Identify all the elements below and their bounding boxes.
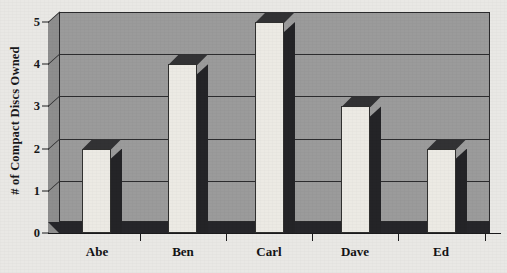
y-axis-tick-labels: 012345 — [24, 0, 40, 273]
x-axis-tick-mark — [312, 233, 313, 241]
y-axis-tick-label: 1 — [24, 183, 40, 198]
bar-front-face — [255, 22, 284, 233]
bar-side-face — [456, 149, 467, 233]
y-axis-tick-label: 2 — [24, 141, 40, 156]
bar-ben[interactable] — [168, 64, 197, 233]
bar-front-face — [341, 106, 370, 233]
x-axis-label-carl: Carl — [256, 244, 281, 260]
y-axis-tick-mark — [42, 106, 49, 107]
x-axis-label-abe: Abe — [86, 244, 108, 260]
bar-front-face — [168, 64, 197, 233]
y-axis-tick-mark — [42, 148, 49, 149]
x-axis-tick-mark — [398, 233, 399, 241]
x-axis-tick-mark — [140, 233, 141, 241]
x-axis-label-ed: Ed — [433, 244, 449, 260]
bar-side-face — [111, 149, 122, 233]
x-axis-line — [48, 233, 501, 234]
y-axis-label-text: # of Compact Discs Owned — [8, 46, 23, 195]
y-axis-tick-label: 0 — [24, 226, 40, 241]
bar-dave[interactable] — [341, 106, 370, 233]
x-axis-tick-mark — [226, 233, 227, 241]
y-axis-tick-label: 5 — [24, 15, 40, 30]
y-axis-tick-mark — [42, 190, 49, 191]
bar-side-face — [197, 64, 208, 233]
bar-carl[interactable] — [255, 22, 284, 233]
y-axis-tick-mark — [42, 233, 49, 234]
bar-side-face — [284, 22, 295, 233]
bar-front-face — [427, 149, 456, 233]
x-axis-label-dave: Dave — [341, 244, 369, 260]
bar-ed[interactable] — [427, 149, 456, 233]
y-axis-tick-label: 4 — [24, 57, 40, 72]
bar-chart-figure: # of Compact Discs Owned 012345 AbeBenCa… — [0, 0, 507, 273]
y-axis-tick-mark — [42, 64, 49, 65]
y-axis-tick-mark — [42, 22, 49, 23]
y-axis-label: # of Compact Discs Owned — [4, 0, 26, 240]
bar-side-face — [370, 106, 381, 233]
x-axis-label-ben: Ben — [172, 244, 194, 260]
x-axis-tick-mark — [485, 233, 486, 241]
bar-abe[interactable] — [82, 149, 111, 233]
y-axis-tick-label: 3 — [24, 99, 40, 114]
bar-front-face — [82, 149, 111, 233]
